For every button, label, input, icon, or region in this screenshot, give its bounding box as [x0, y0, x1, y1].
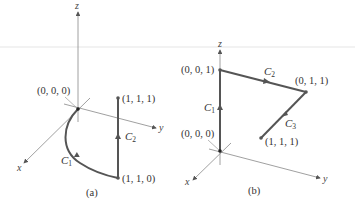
point-origin-b	[218, 149, 222, 153]
point-origin-a	[76, 107, 80, 111]
label-origin-b: (0, 0, 0)	[181, 128, 215, 140]
point-011-b	[304, 90, 308, 94]
point-001-b	[218, 68, 222, 72]
caption-a: (a)	[86, 187, 98, 199]
label-111-a: (1, 1, 1)	[122, 93, 156, 105]
label-011-b: (0, 1, 1)	[295, 75, 329, 87]
x-axis-a	[24, 98, 90, 163]
curve-c1-a	[66, 109, 119, 178]
label-c2-a: C2	[125, 130, 136, 144]
c2-direction-arrow-a	[115, 133, 121, 139]
z-axis-label-a: z	[74, 0, 79, 11]
y-axis-label-a: y	[158, 122, 164, 133]
caption-b: (b)	[248, 185, 261, 197]
curve-c2-b	[220, 70, 306, 92]
point-111-a	[116, 96, 120, 100]
c1-direction-arrow-b	[217, 104, 223, 110]
figure-canvas: z y x (0, 0, 0) (1, 1, 1) (1, 1, 0) C1 C…	[0, 0, 355, 202]
z-axis-label-b: z	[217, 38, 222, 49]
panel-a: z y x (0, 0, 0) (1, 1, 1) (1, 1, 0) C1 C…	[16, 0, 164, 199]
y-axis-label-b: y	[322, 173, 328, 184]
x-axis-b	[193, 143, 231, 180]
y-axis-b	[209, 149, 320, 178]
point-111-b	[259, 136, 263, 140]
origin-tick-a	[65, 97, 78, 109]
label-c1-a: C1	[61, 154, 72, 168]
panel-b: z y x (0, 0, 1) (0, 1, 1) (0, 0, 0) (1, …	[181, 38, 329, 197]
label-001-b: (0, 0, 1)	[181, 64, 215, 76]
label-c3-b: C3	[285, 117, 296, 131]
x-axis-label-b: x	[184, 176, 190, 187]
point-110-a	[116, 176, 120, 180]
label-origin-a: (0, 0, 0)	[37, 85, 71, 97]
label-c1-b: C1	[204, 101, 215, 115]
label-c2-b: C2	[264, 65, 275, 79]
label-111-b: (1, 1, 1)	[265, 136, 299, 148]
label-110-a: (1, 1, 0)	[122, 173, 156, 185]
x-axis-label-a: x	[16, 162, 22, 173]
